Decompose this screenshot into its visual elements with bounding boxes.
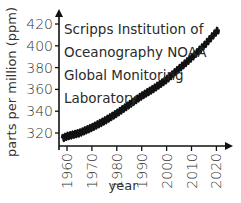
y-tick-label: 420 — [26, 16, 53, 32]
annotation-line: Laboratory — [64, 90, 138, 106]
annotation-line: Scripps Institution of — [64, 21, 205, 37]
y-tick-label: 400 — [26, 38, 53, 54]
x-tick-label: 2010 — [184, 153, 200, 189]
y-ticks: 320340360380400420 — [26, 16, 59, 141]
y-axis-label: parts per million (ppm) — [4, 7, 19, 157]
annotation-line: Global Monitoring — [64, 67, 184, 83]
annotation-line: Oceanography NOAA — [64, 44, 207, 60]
x-axis-label: year — [108, 178, 138, 193]
x-tick-label: 2020 — [208, 153, 224, 189]
y-tick-label: 360 — [26, 81, 53, 97]
y-tick-label: 380 — [26, 60, 53, 76]
x-tick-label: 2000 — [159, 153, 175, 189]
y-tick-label: 340 — [26, 103, 53, 119]
co2-line-chart: 320340360380400420 196019701980199020002… — [0, 0, 241, 203]
y-tick-label: 320 — [26, 125, 53, 141]
x-axis-arrow-icon — [225, 142, 233, 150]
x-tick-label: 1970 — [84, 153, 100, 189]
x-tick-label: 1960 — [59, 153, 75, 189]
y-axis-arrow-icon — [55, 9, 63, 17]
x-ticks: 1960197019801990200020102020 — [59, 146, 224, 189]
